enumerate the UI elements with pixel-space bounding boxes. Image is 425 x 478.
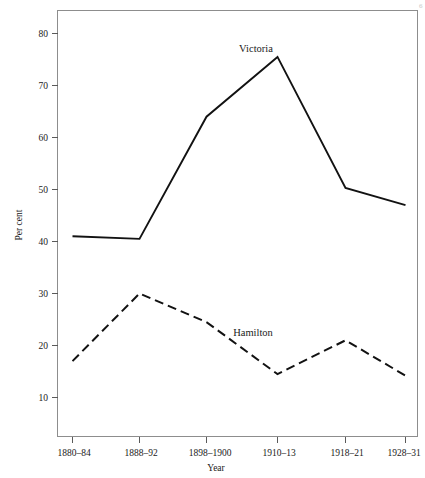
series-label-victoria: Victoria <box>239 43 273 54</box>
x-tick-label: 1888–92 <box>124 448 158 458</box>
x-axis-title: Year <box>207 463 225 473</box>
y-tick-label: 20 <box>39 341 49 351</box>
x-tick-label: 1928–31 <box>387 448 421 458</box>
y-axis-tick-labels: 80 70 60 50 40 30 20 10 <box>39 29 49 403</box>
x-tick-label: 1918–21 <box>330 448 364 458</box>
x-tick-label: 1880–84 <box>57 448 91 458</box>
x-tick-label: 1910–13 <box>262 448 296 458</box>
y-tick-label: 40 <box>39 237 49 247</box>
y-tick-label: 80 <box>39 29 49 39</box>
x-axis-ticks <box>73 437 406 444</box>
x-axis-tick-labels: 1880–84 1888–92 1898–1900 1910–13 1918–2… <box>57 448 421 458</box>
y-axis-ticks <box>52 34 58 398</box>
chart-figure: 6 80 70 60 50 40 30 20 10 Per cent <box>0 0 425 478</box>
y-tick-label: 70 <box>39 81 49 91</box>
y-axis-title: Per cent <box>14 209 24 240</box>
y-tick-label: 30 <box>39 289 49 299</box>
plot-area-frame <box>58 11 418 437</box>
page-corner-mark: 6 <box>419 2 423 10</box>
series-label-hamilton: Hamilton <box>233 327 273 338</box>
y-tick-label: 60 <box>39 133 49 143</box>
y-tick-label: 50 <box>39 185 49 195</box>
y-tick-label: 10 <box>39 393 49 403</box>
line-chart: 6 80 70 60 50 40 30 20 10 Per cent <box>0 0 425 478</box>
x-tick-label: 1898–1900 <box>189 448 232 458</box>
